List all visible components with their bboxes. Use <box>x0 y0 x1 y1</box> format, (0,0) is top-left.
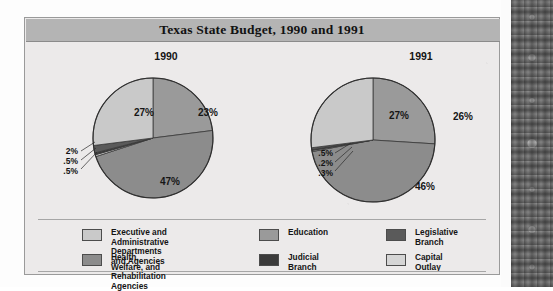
pie-svg-1991 <box>273 48 493 218</box>
pie-1990-label-health: 47% <box>160 176 180 187</box>
pie-1990-label-judicial: .5% <box>48 156 78 166</box>
legend-label-health: Health, Welfare, and Rehabilitation Agen… <box>111 253 166 291</box>
pie-title-1991: 1991 <box>391 50 451 62</box>
pie-1991-label-education: 26% <box>453 111 473 122</box>
legend-label-education: Education <box>288 228 328 238</box>
decorative-border <box>511 0 553 287</box>
page-margin <box>501 0 511 287</box>
pie-1990-label-capital-outlay: .5% <box>48 166 78 176</box>
figure-title: Texas State Budget, 1990 and 1991 <box>25 18 499 41</box>
pie-1991-label-health: 46% <box>415 181 435 192</box>
callout-leader-line <box>81 152 97 169</box>
legend-label-legislative: Legislative Branch <box>415 228 458 247</box>
legend-swatch-education <box>259 229 279 241</box>
legend-label-judicial: Judicial Branch <box>288 253 319 272</box>
pie-chart-1991: 1991 26% 46% 27% .5% .2% .3% <box>273 48 493 218</box>
pie-1991-label-capital-outlay: .5% <box>303 148 333 158</box>
pie-1991-label-legislative: .3% <box>303 168 333 178</box>
pie-1991-label-judicial: .2% <box>303 158 333 168</box>
pie-1991-label-executive: 27% <box>389 110 409 121</box>
legend-swatch-executive <box>82 229 102 241</box>
pie-slice <box>311 78 373 148</box>
figure-panel: Texas State Budget, 1990 and 1991 1990 2… <box>24 17 500 275</box>
legend: Executive and Administrative Departments… <box>38 219 486 274</box>
pie-1990-label-education: 23% <box>198 107 218 118</box>
legend-swatch-judicial <box>259 254 279 266</box>
legend-label-capital-outlay: Capital Outlay <box>415 253 443 272</box>
legend-swatch-legislative <box>386 229 406 241</box>
pie-1990-label-executive: 27% <box>134 107 154 118</box>
legend-bottom-rule <box>38 271 486 272</box>
pie-1990-label-legislative: 2% <box>52 146 78 156</box>
callout-leader-line <box>81 142 95 151</box>
legend-swatch-capital-outlay <box>386 254 406 266</box>
pie-svg-1990 <box>35 48 255 218</box>
pie-chart-1990: 1990 23% 47% 27% 2% .5% .5% <box>35 48 255 218</box>
legend-swatch-health <box>82 254 102 266</box>
pie-title-1990: 1990 <box>136 50 196 62</box>
